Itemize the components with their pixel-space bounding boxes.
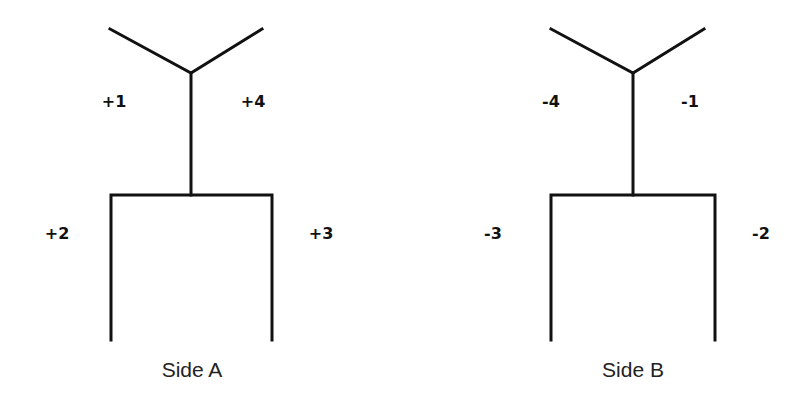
side-a-label-lower-left: +2 [45,226,70,242]
side-a-y-arms [110,29,262,73]
side-a-bracket [111,195,272,340]
diagram-canvas [0,0,808,407]
side-b-label-lower-left: -3 [484,226,502,242]
side-b-figure [551,29,715,340]
side-b-y-arms [551,29,704,73]
side-a-label-upper-left: +1 [102,94,127,110]
side-b-label-lower-right: -2 [752,226,770,242]
side-a-label-upper-right: +4 [241,94,266,110]
side-b-caption: Side B [602,358,664,382]
side-a-label-lower-right: +3 [309,226,334,242]
side-a-caption: Side A [162,358,223,382]
side-b-bracket [551,195,715,340]
side-b-label-upper-left: -4 [542,94,560,110]
side-a-figure [110,29,272,340]
side-b-label-upper-right: -1 [681,94,699,110]
